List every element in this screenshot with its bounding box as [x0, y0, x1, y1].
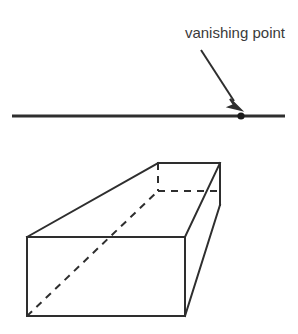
perspective-diagram: vanishing point	[0, 0, 298, 334]
vanishing-point-dot	[237, 112, 244, 119]
vanishing-point-label: vanishing point	[185, 24, 286, 41]
